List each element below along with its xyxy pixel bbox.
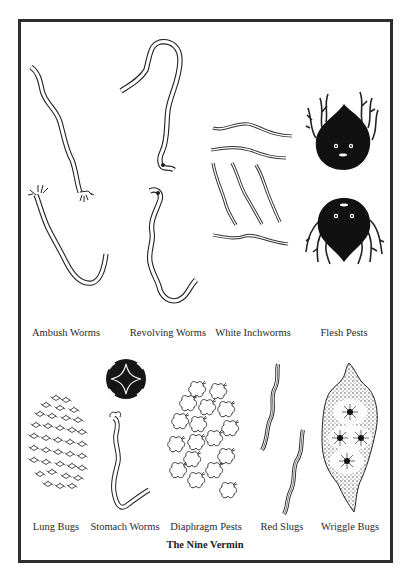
stomach-worm-disc: [106, 359, 146, 399]
vermin-illustration: [0, 0, 407, 580]
figure-caption: The Nine Vermin: [166, 539, 243, 551]
stomach-worm: [110, 412, 149, 507]
revolving-worm-1: [121, 42, 180, 170]
ambush-worm-2: [28, 185, 106, 283]
label-stomach-worms: Stomach Worms: [90, 521, 159, 533]
lung-bugs: [29, 395, 88, 489]
label-ambush-worms: Ambush Worms: [32, 327, 100, 339]
white-inchworms: [211, 124, 292, 244]
label-flesh-pests: Flesh Pests: [321, 327, 368, 339]
diaphragm-pests: [168, 381, 239, 498]
wriggle-bugs: [322, 363, 377, 512]
label-white-inchworms: White Inchworms: [215, 327, 291, 339]
flesh-pest-2: [306, 198, 384, 264]
ambush-worm-1: [31, 67, 94, 202]
revolving-worm-2: [150, 190, 196, 301]
label-red-slugs: Red Slugs: [261, 521, 304, 533]
label-revolving-worms: Revolving Worms: [130, 327, 206, 339]
label-diaphragm-pests: Diaphragm Pests: [170, 521, 241, 533]
label-wriggle-bugs: Wriggle Bugs: [321, 521, 379, 533]
flesh-pest-1: [306, 92, 378, 170]
red-slugs: [262, 364, 303, 514]
label-lung-bugs: Lung Bugs: [33, 521, 79, 533]
